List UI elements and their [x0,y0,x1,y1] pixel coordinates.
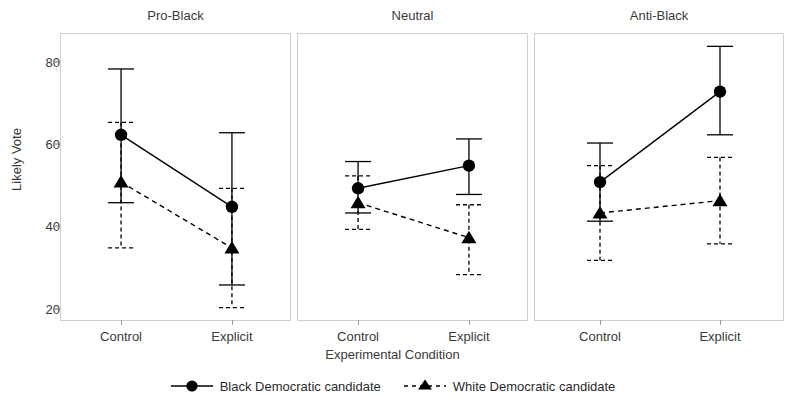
legend-label: Black Democratic candidate [220,379,381,394]
series-line [358,166,469,189]
chart-panel: NeutralControlExplicit [297,33,528,321]
data-point-triangle[interactable] [114,175,129,188]
x-tick-mark [121,320,122,325]
chart-legend: Black Democratic candidateWhite Democrat… [0,378,785,394]
x-tick-mark [358,320,359,325]
panel-plot [61,34,292,322]
y-axis-title: Likely Vote [9,100,24,220]
data-point-triangle[interactable] [713,194,728,207]
series-line [121,182,232,248]
x-tick-mark [469,320,470,325]
legend-item[interactable]: Black Democratic candidate [170,378,381,394]
legend-label: White Democratic candidate [453,379,616,394]
panel-title: Anti-Black [535,8,783,23]
series-line [600,201,720,213]
chart-panel: Pro-BlackControlExplicit [60,33,291,321]
x-axis-title: Experimental Condition [0,347,785,362]
legend-triangle-icon [403,378,447,394]
x-tick-mark [720,320,721,325]
legend-item[interactable]: White Democratic candidate [403,378,616,394]
x-tick-mark [232,320,233,325]
panel-title: Neutral [298,8,527,23]
chart-panel: Anti-BlackControlExplicit [534,33,784,321]
data-point-circle[interactable] [463,159,475,171]
series-line [600,92,720,183]
series-line [358,203,469,238]
panel-plot [298,34,529,322]
series-line [121,135,232,207]
x-tick-label: Explicit [699,329,740,344]
data-point-circle[interactable] [714,85,726,97]
legend-circle-icon [170,378,214,394]
x-tick-mark [600,320,601,325]
x-tick-label: Control [100,329,142,344]
data-point-triangle[interactable] [593,206,608,219]
data-point-triangle[interactable] [461,231,476,244]
data-point-triangle[interactable] [224,241,239,254]
x-tick-label: Explicit [448,329,489,344]
panel-title: Pro-Black [61,8,290,23]
x-tick-label: Explicit [211,329,252,344]
chart-root: 20406080 Likely Vote Pro-BlackControlExp… [0,0,785,409]
panel-plot [535,34,785,322]
data-point-triangle[interactable] [351,196,366,209]
x-tick-label: Control [337,329,379,344]
x-tick-label: Control [579,329,621,344]
